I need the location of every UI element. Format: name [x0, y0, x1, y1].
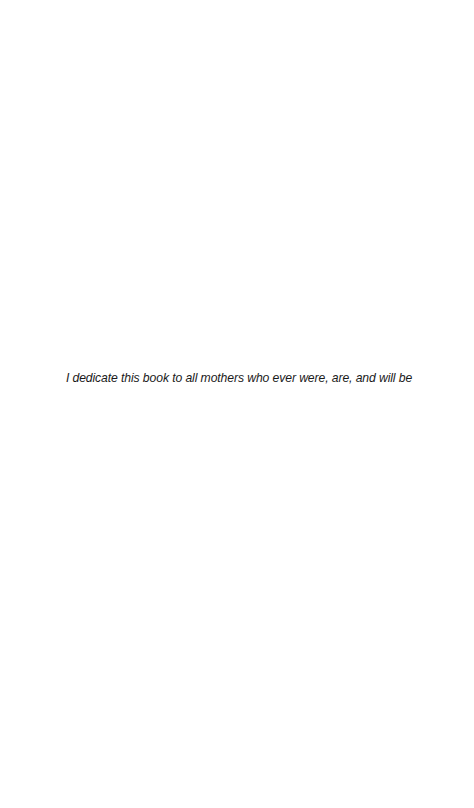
- dedication-text: I dedicate this book to all mothers who …: [0, 371, 474, 385]
- book-page: I dedicate this book to all mothers who …: [0, 0, 474, 808]
